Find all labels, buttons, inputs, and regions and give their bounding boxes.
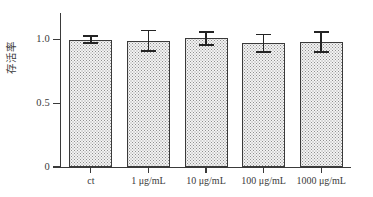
error-bar [138,31,158,167]
error-bar-stem [320,32,322,52]
y-tick-label: 1.0 [0,34,50,45]
error-bar [254,34,274,167]
y-tick-mark [53,103,60,104]
plot-area [62,14,350,167]
error-bar-cap-lower [83,42,98,44]
error-bar-cap-upper [141,30,156,32]
y-tick-mark [53,39,60,40]
error-bar-cap-upper [83,35,98,37]
error-bar-cap-upper [256,34,271,36]
error-bar-cap-upper [199,31,214,33]
y-tick-mark [53,166,60,167]
error-bar-stem [148,31,150,51]
x-tick-mark [90,168,91,174]
x-tick-mark [263,168,264,174]
y-axis-title: 存活率 [6,41,17,74]
x-tick-label: 1000 μg/mL [276,175,366,186]
x-tick-mark [205,168,206,174]
error-bar [311,32,331,167]
bar-chart-figure: 存活率 00.51.0 ct1 μg/mL10 μg/mL100 μg/mL10… [0,0,373,197]
error-bar [196,32,216,167]
error-bar-stem [205,32,207,45]
error-bar-cap-lower [256,51,271,53]
error-bar-cap-lower [199,44,214,46]
error-bar-cap-lower [314,51,329,53]
x-tick-mark [148,168,149,174]
y-tick-label: 0 [0,162,50,173]
x-tick-mark [321,168,322,174]
error-bar-stem [263,34,265,52]
y-tick-label: 0.5 [0,98,50,109]
error-bar-cap-lower [141,50,156,52]
error-bar [81,36,101,167]
error-bar-cap-upper [314,31,329,33]
